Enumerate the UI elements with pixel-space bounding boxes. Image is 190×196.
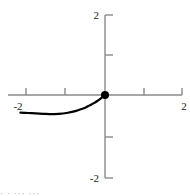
chart-figure: -2 2 2 -2 · · ··· ··· <box>0 0 190 196</box>
y-axis-label-negative-two: -2 <box>90 172 99 184</box>
plot-canvas: -2 2 2 -2 <box>0 0 190 196</box>
plot-background <box>0 0 190 196</box>
x-axis-label-negative-two: -2 <box>13 100 22 112</box>
y-axis-label-positive-two: 2 <box>94 9 100 21</box>
endpoint-dot-marker <box>101 91 109 99</box>
x-axis-label-positive-two: 2 <box>181 100 187 112</box>
cut-off-caption-text: · · ··· ··· <box>0 189 190 196</box>
